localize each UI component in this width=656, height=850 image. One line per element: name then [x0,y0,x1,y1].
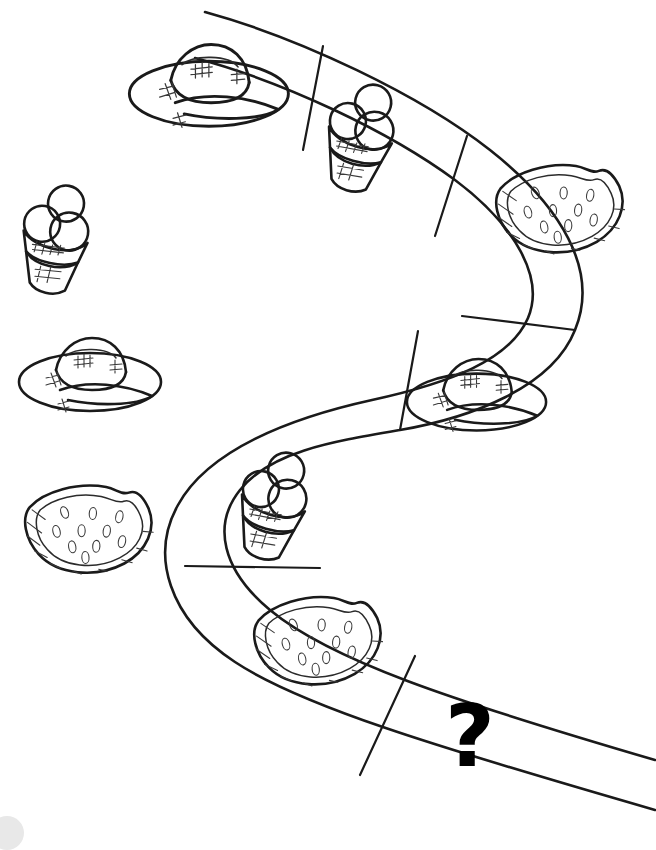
worksheet-page: ? [0,0,656,844]
loose-item-3-watermelon[interactable] [0,0,656,844]
